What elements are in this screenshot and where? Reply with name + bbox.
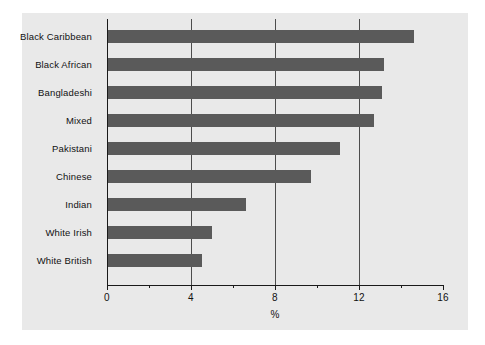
bar-mixed xyxy=(107,114,374,127)
bar-black-african xyxy=(107,58,384,71)
xtick-label-0: 0 xyxy=(104,292,110,303)
ytick-label-white-irish: White Irish xyxy=(45,227,92,238)
bar-indian xyxy=(107,198,246,211)
xtick-label-16: 16 xyxy=(437,292,449,303)
xtick-minor-10 xyxy=(317,285,318,288)
x-axis-label: % xyxy=(271,309,280,320)
xtick-12 xyxy=(359,285,360,290)
ytick-label-mixed: Mixed xyxy=(66,115,92,126)
bar-chinese xyxy=(107,170,311,183)
bar-pakistani xyxy=(107,142,340,155)
bar-white-irish xyxy=(107,226,212,239)
xtick-minor-6 xyxy=(233,285,234,288)
xtick-0 xyxy=(107,285,108,290)
xtick-4 xyxy=(191,285,192,290)
ytick-label-chinese: Chinese xyxy=(56,171,92,182)
ytick-label-black-caribbean: Black Caribbean xyxy=(20,31,92,42)
xtick-label-12: 12 xyxy=(353,292,365,303)
xtick-8 xyxy=(275,285,276,290)
ytick-label-pakistani: Pakistani xyxy=(52,143,92,154)
chart-figure: Black Caribbean Black African Bangladesh… xyxy=(0,0,485,345)
xtick-label-8: 8 xyxy=(272,292,278,303)
ytick-label-bangladeshi: Bangladeshi xyxy=(38,87,92,98)
bar-black-caribbean xyxy=(107,30,414,43)
xtick-minor-14 xyxy=(401,285,402,288)
ytick-label-white-british: White British xyxy=(37,255,92,266)
ytick-label-black-african: Black African xyxy=(35,59,92,70)
y-axis-line xyxy=(107,19,108,286)
xtick-16 xyxy=(443,285,444,290)
bar-bangladeshi xyxy=(107,86,382,99)
xtick-label-4: 4 xyxy=(188,292,194,303)
bar-white-british xyxy=(107,254,202,267)
ytick-label-indian: Indian xyxy=(65,199,92,210)
xtick-minor-2 xyxy=(149,285,150,288)
